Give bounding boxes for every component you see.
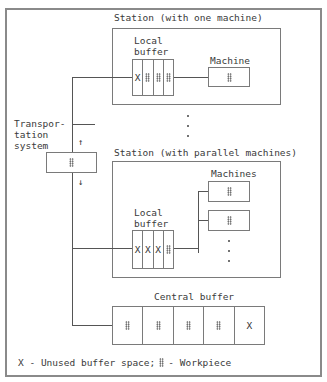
- connector-transport-central-buffer: [72, 325, 112, 326]
- buffer-cell-workpiece: [142, 60, 152, 95]
- workpiece-icon: [186, 321, 191, 330]
- connector-branch-machine-1: [198, 191, 208, 192]
- legend: X - Unused buffer space; - Workpiece: [18, 357, 231, 368]
- buffer-cell-workpiece: [203, 307, 233, 344]
- connector-transport-stub: [72, 124, 95, 125]
- workpiece-icon: [156, 73, 161, 82]
- central-buffer: X: [112, 306, 265, 345]
- workpiece-icon: [227, 73, 232, 82]
- legend-workpiece-text: - Workpiece: [168, 357, 231, 368]
- station-one-local-buffer-label: Local buffer: [134, 35, 168, 57]
- workpiece-icon: [125, 321, 130, 330]
- transport-line: [72, 77, 73, 326]
- workpiece-icon: [166, 73, 171, 82]
- workpiece-icon: [69, 158, 74, 167]
- station-parallel-local-buffer-label: Local buffer: [134, 207, 168, 229]
- connector-branch-machine-2: [198, 220, 208, 221]
- connector-buffer-branch: [174, 248, 198, 249]
- buffer-cell-workpiece: [153, 60, 163, 95]
- ellipsis-dot: [228, 250, 230, 252]
- station-one-title: Station (with one machine): [114, 12, 263, 23]
- central-buffer-label: Central buffer: [154, 291, 234, 302]
- buffer-cell-unused: X: [133, 60, 142, 95]
- workpiece-icon: [227, 187, 232, 196]
- buffer-cell-workpiece: [163, 60, 173, 95]
- buffer-cell-unused: X: [153, 231, 163, 268]
- buffer-cell-workpiece: [113, 307, 142, 344]
- machines-label: Machines: [211, 168, 257, 179]
- ellipsis-dot: [228, 240, 230, 242]
- machine-box: [208, 67, 250, 87]
- ellipsis-dot: [228, 260, 230, 262]
- buffer-cell-unused: X: [133, 231, 142, 268]
- buffer-cell-unused: X: [142, 231, 152, 268]
- transport-label: Transpor- tation system: [14, 118, 65, 151]
- connector-transport-station-one: [72, 77, 132, 78]
- workpiece-icon: [216, 321, 221, 330]
- ellipsis-dot: [187, 115, 189, 117]
- workpiece-icon: [227, 216, 232, 225]
- station-parallel-title: Station (with parallel machines): [114, 147, 297, 158]
- station-one-local-buffer: X: [132, 59, 174, 96]
- workpiece-icon: [145, 73, 150, 82]
- up-arrow-icon: ↑: [78, 138, 83, 147]
- down-arrow-icon: ↓: [78, 178, 83, 187]
- workpiece-icon: [159, 358, 164, 367]
- buffer-cell-workpiece: [142, 307, 172, 344]
- machine-branch-line: [198, 191, 199, 253]
- transport-carrier-box: [46, 152, 97, 173]
- buffer-cell-workpiece: [173, 307, 203, 344]
- workpiece-icon: [156, 321, 161, 330]
- connector-transport-station-parallel: [72, 248, 132, 249]
- workpiece-icon: [166, 245, 171, 254]
- legend-unused-text: X - Unused buffer space;: [18, 357, 155, 368]
- buffer-cell-unused: X: [234, 307, 264, 344]
- ellipsis-dot: [187, 125, 189, 127]
- parallel-machine-box: [208, 210, 250, 231]
- parallel-machine-box: [208, 181, 250, 202]
- connector-buffer-machine: [174, 77, 208, 78]
- machine-label: Machine: [210, 55, 250, 66]
- ellipsis-dot: [187, 135, 189, 137]
- buffer-cell-workpiece: [163, 231, 173, 268]
- station-parallel-local-buffer: X X X: [132, 230, 174, 269]
